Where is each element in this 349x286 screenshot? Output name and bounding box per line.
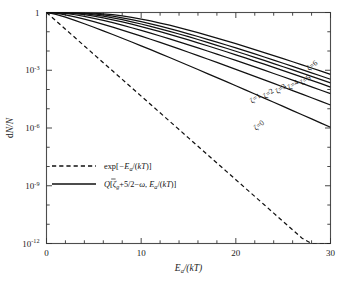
y-tick-label: 10-9 [25,180,39,191]
x-tick-label: 0 [44,248,49,258]
curve-label-zeta-0: ζ=0 [252,118,267,132]
curve-zeta-3 [47,13,331,88]
curve-zeta-2 [47,13,331,94]
curve-labels: ζ=0ζ=1ζ=2ζ=3ζ=4ζ=5ζ=6 [248,58,319,132]
curve-zeta-1 [47,13,331,105]
svg-text:dN/N: dN/N [5,117,15,138]
y-axis-title: dN/N [5,117,15,138]
legend-label-Q: Q[ζg+5/2−ω, Ea/(kT)] [104,180,177,190]
x-axis-title: Ea/(kT) [174,263,202,274]
figure-container: 0102030Ea/(kT)110-310-610-910-12dN/Nζ=0ζ… [0,0,349,286]
y-tick-label: 10-12 [22,237,39,248]
svg-text:Ea/(kT): Ea/(kT) [174,263,202,274]
x-tick-label: 30 [326,248,336,258]
curves [47,13,331,244]
x-axis: 0102030 [44,13,335,259]
y-tick-label: 10-6 [25,122,39,133]
curve-label-zeta-5: ζ=5 [298,73,313,87]
semilog-plot: 0102030Ea/(kT)110-310-610-910-12dN/Nζ=0ζ… [0,0,349,286]
x-tick-label: 10 [137,248,147,258]
legend-label-exp: exp[−Ea/(kT)] [104,162,152,172]
y-tick-label: 1 [35,8,40,18]
curve-exp-reference [47,13,331,244]
legend: exp[−Ea/(kT)]Q[ζg+5/2−ω, Ea/(kT)] [52,162,177,190]
plot-frame [47,13,331,244]
x-tick-label: 20 [231,248,241,258]
curve-zeta-5 [47,13,331,80]
y-axis: 110-310-610-910-12 [22,8,330,249]
y-tick-label: 10-3 [25,64,39,75]
